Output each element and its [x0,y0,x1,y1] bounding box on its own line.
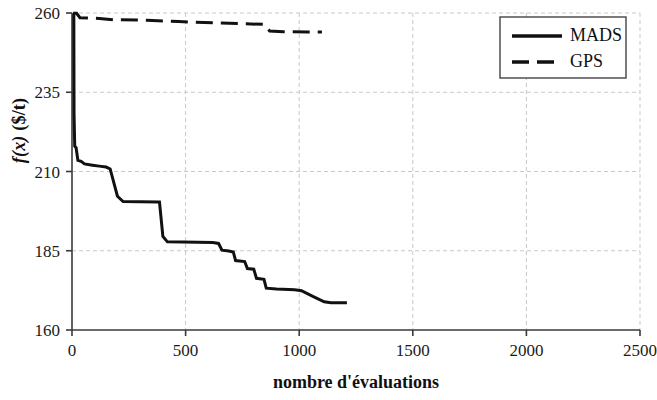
y-axis-title-units: ($/t) [9,98,29,136]
x-tick-label: 2500 [623,341,657,360]
series-line-mads [73,14,347,303]
y-axis-tick-labels: 160185210235260 [35,4,61,340]
y-tick-label: 260 [35,4,61,23]
x-tick-label: 1000 [282,341,316,360]
y-axis-ticks [66,13,72,330]
y-tick-label: 160 [35,321,61,340]
y-tick-label: 210 [35,163,61,182]
x-tick-label: 500 [173,341,199,360]
data-series-group [73,13,347,302]
legend-label-mads: MADS [570,25,622,45]
legend-label-gps: GPS [570,51,603,71]
x-axis-tick-labels: 05001000150020002500 [68,341,657,360]
x-tick-label: 1500 [396,341,430,360]
y-tick-label: 235 [35,83,61,102]
chart-legend: MADS GPS [500,17,626,78]
series-line-gps [73,13,322,32]
x-tick-label: 0 [68,341,77,360]
x-tick-label: 2000 [509,341,543,360]
chart-canvas: 160185210235260 05001000150020002500 MAD… [0,0,657,400]
x-axis-title: nombre d'évaluations [273,372,439,392]
figure-container: 160185210235260 05001000150020002500 MAD… [0,0,657,400]
y-axis-title-fx: f(x) [9,135,29,163]
y-tick-label: 185 [35,242,61,261]
y-axis-title: f(x) ($/t) [9,76,30,186]
x-axis-ticks [72,330,640,336]
